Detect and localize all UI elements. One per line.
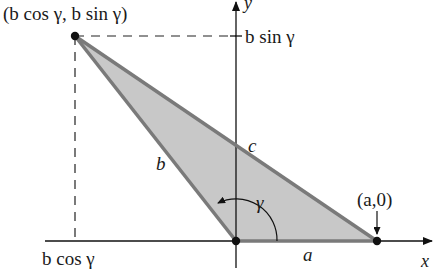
x-axis-label: x xyxy=(420,251,429,271)
top-vertex-dot xyxy=(71,32,79,40)
a-point-dot xyxy=(373,237,381,245)
side-b-label: b xyxy=(156,153,166,174)
side-c-label: c xyxy=(248,135,257,156)
angle-gamma-label: γ xyxy=(256,192,264,213)
top-vertex-label: (b cos γ, b sin γ) xyxy=(3,3,127,25)
side-a-label: a xyxy=(303,244,313,265)
law-of-cosines-diagram: (b cos γ, b sin γ) y b sin γ b cos γ x (… xyxy=(0,0,439,274)
x-tick-label: b cos γ xyxy=(42,248,95,269)
y-tick-label: b sin γ xyxy=(245,26,295,47)
y-axis-label: y xyxy=(242,0,252,13)
origin-dot xyxy=(232,237,240,245)
a-point-label: (a,0) xyxy=(357,189,392,211)
